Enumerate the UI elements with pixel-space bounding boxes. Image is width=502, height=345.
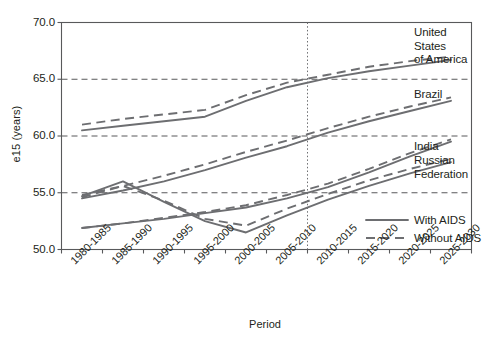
legend-item-with-aids-label: With AIDS <box>414 214 466 226</box>
data-series-group <box>82 57 451 233</box>
series-label-usa-line1: United <box>414 26 467 40</box>
series-brazil-with-aids <box>82 101 451 199</box>
series-brazil-without-aids <box>82 97 451 195</box>
series-label-usa: United States of America <box>414 26 467 67</box>
y-tick-label-70.0: 70.0 <box>15 16 55 28</box>
series-label-brazil-line1: Brazil <box>414 88 442 102</box>
legend-item-without-aids-label: Without AIDS <box>414 232 481 244</box>
y-axis-ticks <box>58 23 62 250</box>
series-label-brazil: Brazil <box>414 88 442 102</box>
x-axis-title: Period <box>205 318 325 330</box>
series-label-russian-federation: Russian Federation <box>414 154 468 181</box>
series-label-india-line1: India <box>414 140 438 154</box>
series-russian-federation-without-aids <box>82 159 451 226</box>
series-india-with-aids <box>82 142 451 228</box>
y-tick-label-50.0: 50.0 <box>15 243 55 255</box>
series-label-usa-line3: of America <box>414 53 467 67</box>
series-label-russia-line1: Russian <box>414 154 468 168</box>
chart-figure: 50.055.060.065.070.0 e15 (years) 1980-19… <box>0 0 502 345</box>
y-axis-title: e15 (years) <box>10 74 22 194</box>
series-label-russia-line2: Federation <box>414 168 468 182</box>
series-united-states-of-america-with-aids <box>82 60 451 130</box>
gridlines <box>62 79 472 193</box>
series-label-india: India <box>414 140 438 154</box>
series-label-usa-line2: States <box>414 40 467 54</box>
